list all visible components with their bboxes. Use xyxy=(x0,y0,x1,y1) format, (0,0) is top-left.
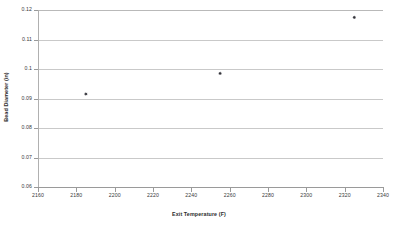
y-axis-tick-label: 0.06 xyxy=(22,184,33,189)
x-axis-line xyxy=(38,187,384,188)
x-axis-tick-label: 2240 xyxy=(185,193,197,198)
y-axis-tick-label: 0.11 xyxy=(22,37,32,42)
x-axis-tick-label: 2340 xyxy=(377,193,389,198)
x-axis-tick xyxy=(268,188,269,192)
y-axis-tick xyxy=(34,10,38,11)
x-axis-tick-label: 2280 xyxy=(262,193,274,198)
x-axis-tick-label: 2320 xyxy=(339,193,351,198)
y-axis-tick-label: 0.1 xyxy=(24,66,32,71)
y-axis-title: Bead Diameter (in) xyxy=(3,47,9,147)
x-axis-title: Exit Temperature (F) xyxy=(0,211,398,217)
gridline-horizontal xyxy=(38,40,383,41)
x-axis-tick xyxy=(76,188,77,192)
data-point xyxy=(84,92,88,96)
y-axis-tick-label: 0.08 xyxy=(22,125,33,130)
gridline-horizontal xyxy=(38,158,383,159)
y-axis-tick xyxy=(34,40,38,41)
x-axis-tick xyxy=(191,188,192,192)
x-axis-tick xyxy=(306,188,307,192)
x-axis-tick xyxy=(383,188,384,192)
x-axis-tick xyxy=(38,188,39,192)
gridline-horizontal xyxy=(38,69,383,70)
x-axis-tick-label: 2220 xyxy=(147,193,159,198)
x-axis-tick-label: 2160 xyxy=(32,193,44,198)
x-axis-tick xyxy=(115,188,116,192)
y-axis-tick-label: 0.07 xyxy=(22,155,33,160)
gridline-horizontal xyxy=(38,10,383,11)
x-axis-tick xyxy=(153,188,154,192)
x-axis-tick-label: 2300 xyxy=(300,193,312,198)
y-axis-tick xyxy=(34,158,38,159)
plot-area xyxy=(38,10,383,187)
gridline-horizontal xyxy=(38,99,383,100)
y-axis-tick-label: 0.09 xyxy=(22,96,33,101)
x-axis-tick xyxy=(230,188,231,192)
y-axis-tick xyxy=(34,128,38,129)
x-axis-tick-label: 2260 xyxy=(224,193,236,198)
y-axis-tick xyxy=(34,99,38,100)
y-axis-tick-label: 0.12 xyxy=(22,7,33,12)
y-axis-tick xyxy=(34,69,38,70)
x-axis-tick-labels: 2160218022002220224022602280230023202340 xyxy=(0,193,398,203)
data-point xyxy=(352,15,356,19)
data-point xyxy=(218,71,222,75)
scatter-chart: 0.060.070.080.090.10.110.12 216021802200… xyxy=(0,0,398,225)
gridline-horizontal xyxy=(38,128,383,129)
x-axis-tick-label: 2200 xyxy=(109,193,121,198)
x-axis-tick-label: 2180 xyxy=(70,193,82,198)
x-axis-tick xyxy=(345,188,346,192)
y-axis-line xyxy=(38,10,39,188)
